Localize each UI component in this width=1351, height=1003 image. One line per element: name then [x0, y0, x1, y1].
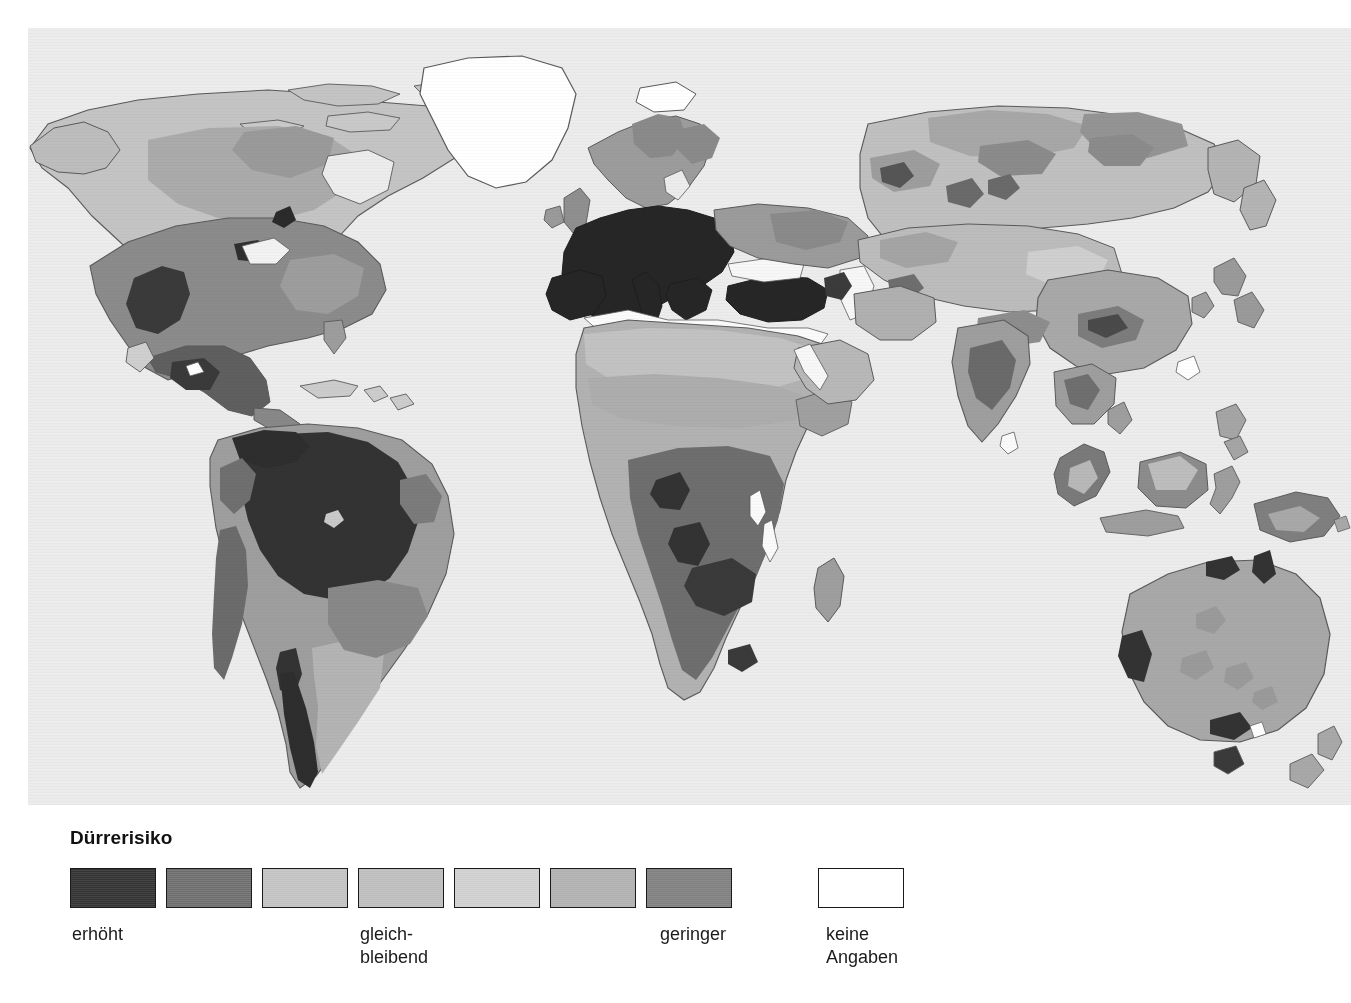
- world-drought-risk-map[interactable]: [28, 28, 1351, 805]
- no-data-swatch: [818, 868, 904, 908]
- drought-risk-swatch-6: [550, 868, 636, 908]
- legend-title: Dürrerisiko: [70, 827, 172, 849]
- drought-risk-swatch-7: [646, 868, 732, 908]
- drought-risk-swatch-3: [262, 868, 348, 908]
- drought-risk-swatch-2: [166, 868, 252, 908]
- legend-label-increased: erhöht: [72, 923, 123, 946]
- legend-label-lower: geringer: [660, 923, 726, 946]
- map-legend: Dürrerisiko erhöht gleich- bleibend geri…: [0, 805, 1351, 1003]
- legend-label-no-data: keine Angaben: [826, 923, 898, 969]
- drought-risk-swatch-5: [454, 868, 540, 908]
- drought-risk-swatch-1: [70, 868, 156, 908]
- drought-risk-swatch-4: [358, 868, 444, 908]
- legend-label-unchanged: gleich- bleibend: [360, 923, 428, 969]
- world-map-panel: [28, 28, 1351, 805]
- cut-off-header-text: [0, 0, 1351, 12]
